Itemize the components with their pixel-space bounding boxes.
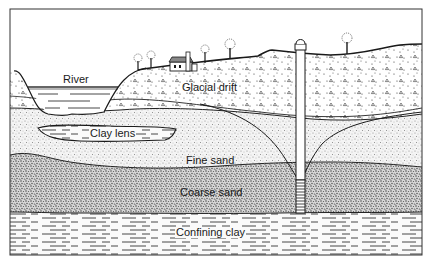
well-screen	[296, 180, 305, 213]
label-clay-lens: Clay lens	[89, 128, 136, 139]
label-coarse-sand: Coarse sand	[180, 187, 242, 198]
well-head	[295, 40, 306, 51]
tree-icon	[225, 39, 235, 58]
tree-icon	[342, 33, 352, 54]
tree-icon	[147, 51, 155, 68]
house-icon	[169, 52, 197, 71]
label-glacial-drift: Glacial drift	[182, 82, 237, 93]
label-fine-sand: Fine sand	[186, 155, 234, 166]
label-confining-clay: Confining clay	[175, 227, 246, 238]
well-casing	[296, 48, 305, 180]
label-river: River	[63, 74, 89, 85]
tree-icon	[134, 54, 142, 70]
